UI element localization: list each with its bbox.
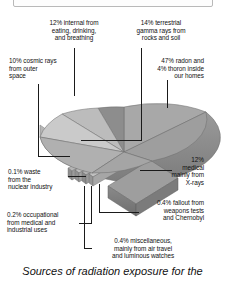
leader-line-cosmic-h — [38, 156, 70, 157]
label-miscellaneous: 0.4% miscellaneous, mainly from air trav… — [84, 237, 202, 260]
leader-line-cosmic-v — [38, 84, 39, 156]
label-medical-xrays: 12% medical mainly from X-rays — [150, 156, 204, 186]
label-radon-thoron: 47% radon and 4% thoron inside our homes — [138, 57, 204, 80]
label-nuclear-waste: 0.1% waste from the nuclear industry — [8, 168, 78, 191]
leader-line-terrestrial-h — [81, 140, 142, 141]
label-terrestrial: 14% terrestrial gamma rays from rocks an… — [120, 19, 202, 42]
label-occupational: 0.2% occupational from medical and indus… — [7, 211, 95, 234]
figure-root: 12% internal from eating, drinking, and … — [0, 0, 225, 284]
label-internal: 12% internal from eating, drinking, and … — [28, 19, 120, 42]
figure-caption: Sources of radiation exposure for the — [0, 265, 225, 277]
leader-line-radon — [167, 80, 168, 108]
leader-line-fallout-v — [99, 184, 100, 212]
label-cosmic-rays: 10% cosmic rays from outer space — [9, 57, 81, 80]
label-fallout: 0.4% fallout from weapons tests and Cher… — [110, 199, 204, 222]
